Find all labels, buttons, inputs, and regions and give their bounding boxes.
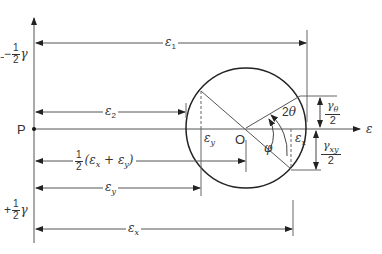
label-epsx-inner: εx <box>293 132 308 147</box>
minus-sign: − <box>4 47 11 61</box>
label-phi: φ <box>262 142 274 154</box>
label-half-sum-eps: 1 2 (εx + εy) <box>73 150 136 172</box>
frac-den: 2 <box>13 55 19 66</box>
label-epsx-dim: εx <box>126 222 141 237</box>
label-pos-half-gamma-group: + 1 2 γ <box>4 199 28 221</box>
frac-num: 1 <box>12 43 20 55</box>
frac-num: 1 <box>75 150 83 162</box>
label-gamma-theta-half: γθ 2 <box>325 100 340 127</box>
label-eps2: ε2 <box>103 105 118 120</box>
label-eps1: ε1 <box>163 36 178 51</box>
point-p-dot <box>32 127 36 131</box>
frac-num: 1 <box>12 199 20 211</box>
label-point-p: P <box>15 123 28 136</box>
gamma-symbol: γ <box>21 47 28 61</box>
plus-sign: + <box>4 203 11 217</box>
label-epsy-inner: εy <box>202 132 217 147</box>
mohr-circle-diagram <box>0 0 382 254</box>
frac-den: 2 <box>76 162 82 173</box>
label-epsilon-axis: ε <box>364 123 374 135</box>
label-epsy-dim: εy <box>103 181 118 196</box>
label-two-theta: 2θ <box>280 106 298 118</box>
gamma-symbol: γ <box>21 203 28 217</box>
label-neg-half-gamma-group: − 1 2 γ <box>4 43 28 65</box>
frac-den: 2 <box>13 211 19 222</box>
label-gamma-xy-half: γxy 2 <box>321 140 341 167</box>
label-origin-o: O <box>233 133 247 146</box>
